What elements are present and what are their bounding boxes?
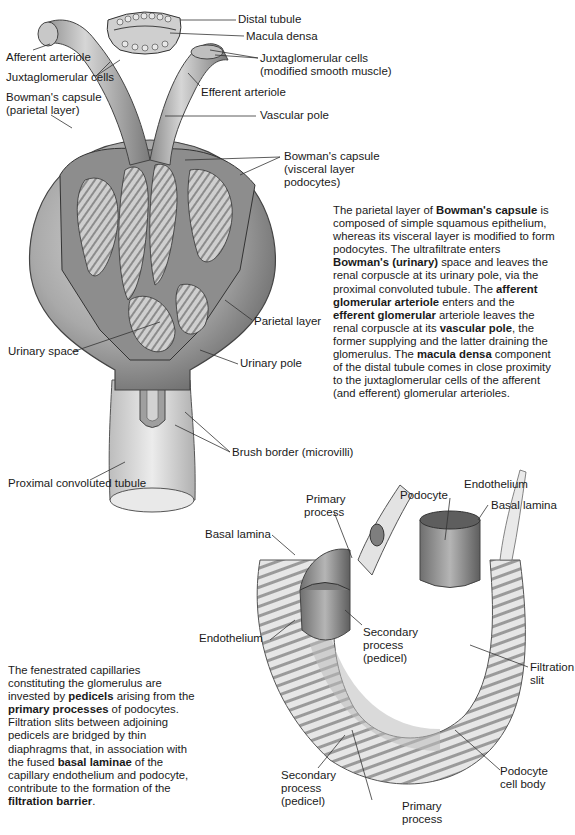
label-jg-cells-left: Juxtaglomerular cells — [6, 71, 114, 84]
label-secondary-process-mid-sub1: process — [363, 639, 403, 652]
label-podocyte-cell-body: Podocyte — [500, 765, 548, 778]
label-primary-process-top: Primary — [306, 493, 346, 506]
label-vascular-pole: Vascular pole — [260, 109, 329, 122]
label-basal-lamina-right: Basal lamina — [491, 499, 557, 512]
label-jg-cells-right: Juxtaglomerular cells — [260, 52, 368, 65]
label-primary-process-top-sub: process — [304, 506, 344, 519]
label-efferent-arteriole: Efferent arteriole — [201, 86, 286, 99]
label-afferent-arteriole: Afferent arteriole — [6, 51, 91, 64]
label-distal-tubule: Distal tubule — [238, 13, 301, 26]
label-bowman-visceral-sub2: podocytes) — [284, 176, 340, 189]
label-bowman-parietal: Bowman's capsule — [6, 91, 102, 104]
label-secondary-process-mid: Secondary — [363, 626, 418, 639]
label-urinary-pole: Urinary pole — [240, 357, 302, 370]
label-proximal-tubule: Proximal convoluted tubule — [8, 477, 146, 490]
label-podocyte: Podocyte — [400, 489, 448, 502]
label-jg-cells-right-sub: (modified smooth muscle) — [260, 65, 392, 78]
label-primary-process-bottom-sub: process — [402, 813, 442, 826]
label-primary-process-bottom: Primary — [402, 800, 442, 813]
label-filtration-slit: Filtration — [530, 661, 574, 674]
label-endothelium-top: Endothelium — [464, 478, 528, 491]
label-secondary-process-mid-sub2: (pedicel) — [363, 652, 407, 665]
label-podocyte-cell-body-sub: cell body — [500, 778, 545, 791]
label-urinary-space: Urinary space — [8, 345, 79, 358]
label-bowman-visceral: Bowman's capsule — [284, 150, 380, 163]
label-brush-border: Brush border (microvilli) — [232, 446, 353, 459]
corpuscle-description: The parietal layer of Bowman's capsule i… — [333, 204, 558, 400]
label-secondary-process-bottom-sub2: (pedicel) — [281, 795, 325, 808]
label-basal-lamina-left: Basal lamina — [205, 528, 271, 541]
distal-tubule-shape — [107, 12, 181, 54]
label-endothelium-left: Endothelium — [199, 632, 263, 645]
label-bowman-visceral-sub1: (visceral layer — [284, 163, 355, 176]
label-parietal-layer: Parietal layer — [254, 315, 321, 328]
filtration-barrier-description: The fenestrated capillaries constituting… — [8, 664, 200, 808]
label-bowman-parietal-sub: (parietal layer) — [6, 104, 80, 117]
label-secondary-process-bottom-sub1: process — [281, 782, 321, 795]
label-filtration-slit-sub: slit — [530, 674, 544, 687]
label-secondary-process-bottom: Secondary — [281, 769, 336, 782]
label-macula-densa: Macula densa — [246, 30, 318, 43]
